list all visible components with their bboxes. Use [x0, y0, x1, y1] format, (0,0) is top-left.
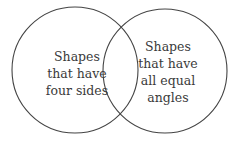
right-label-line: angles — [133, 89, 203, 106]
right-set-label: Shapes that have all equal angles — [133, 38, 203, 106]
left-label-line: Shapes — [42, 48, 112, 65]
right-label-line: Shapes — [133, 38, 203, 55]
left-label-line: that have — [42, 65, 112, 82]
right-label-line: that have — [133, 55, 203, 72]
left-set-label: Shapes that have four sides — [42, 48, 112, 99]
left-label-line: four sides — [42, 82, 112, 99]
right-label-line: all equal — [133, 72, 203, 89]
